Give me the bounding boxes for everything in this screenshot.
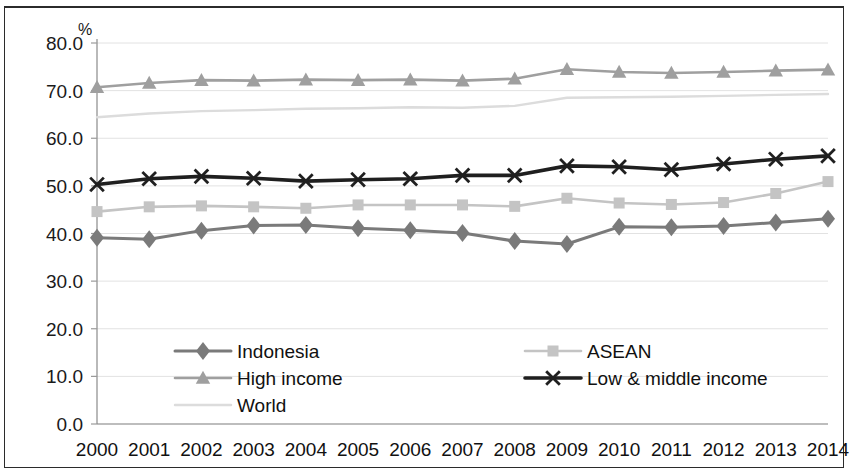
data-point-marker <box>769 214 783 232</box>
x-axis-tick-label: 2011 <box>651 439 692 460</box>
x-axis-tick-label: 2002 <box>180 439 222 460</box>
y-axis-tick-label: 40.0 <box>46 224 83 245</box>
data-point-marker <box>823 176 834 187</box>
data-point-marker <box>248 201 259 212</box>
x-axis-tick-label: 2004 <box>285 439 328 460</box>
legend-item-asean[interactable]: ASEAN <box>525 341 651 362</box>
y-axis-tick-label: 30.0 <box>46 271 83 292</box>
data-point-marker <box>821 210 835 228</box>
data-point-marker <box>455 224 469 242</box>
data-point-marker <box>90 229 104 247</box>
legend-item-world[interactable]: World <box>175 395 286 416</box>
chart-figure: 80.070.060.050.040.030.020.010.00.0 2000… <box>0 0 850 474</box>
data-point-marker <box>718 197 729 208</box>
data-point-marker <box>508 232 522 250</box>
x-axis-tick-label: 2014 <box>807 439 850 460</box>
data-point-marker <box>405 199 416 210</box>
data-point-marker <box>299 216 313 234</box>
y-axis-tick-label: 60.0 <box>46 128 83 149</box>
x-axis-tick-label: 2010 <box>598 439 640 460</box>
series-high-income <box>90 62 835 93</box>
x-axis-tick-label: 2007 <box>441 439 483 460</box>
series-low-middle-income <box>90 149 835 191</box>
x-axis-tick-label: 2006 <box>389 439 431 460</box>
legend-label: Low & middle income <box>587 368 768 389</box>
y-axis-tick-label: 20.0 <box>46 319 83 340</box>
y-axis-tick-label: 10.0 <box>46 366 83 387</box>
data-point-marker <box>142 230 156 248</box>
data-point-marker <box>144 201 155 212</box>
x-axis-tick-label: 2008 <box>494 439 536 460</box>
series-asean <box>92 176 834 217</box>
legend-item-high-income[interactable]: High income <box>175 368 343 389</box>
series-indonesia <box>90 210 835 253</box>
data-point-marker <box>770 188 781 199</box>
data-point-marker <box>403 221 417 239</box>
data-point-marker <box>353 199 364 210</box>
legend-label: High income <box>237 368 343 389</box>
data-point-marker <box>247 216 261 234</box>
data-point-marker <box>509 201 520 212</box>
chart-legend: IndonesiaASEANHigh incomeLow & middle in… <box>175 341 768 416</box>
x-axis-tick-label: 2000 <box>76 439 118 460</box>
legend-label: ASEAN <box>587 341 651 362</box>
legend-swatch-marker <box>548 346 559 357</box>
data-point-marker <box>300 203 311 214</box>
y-axis-unit-label: % <box>78 21 92 38</box>
data-point-marker <box>351 219 365 237</box>
series-line <box>97 94 828 117</box>
legend-label: World <box>237 395 286 416</box>
x-axis-tick-label: 2003 <box>233 439 275 460</box>
y-axis-tick-label: 70.0 <box>46 81 83 102</box>
x-axis-tick-labels: 2000200120022003200420052006200720082009… <box>76 439 850 460</box>
x-axis-tick-label: 2009 <box>546 439 588 460</box>
y-axis-tick-labels: 80.070.060.050.040.030.020.010.00.0 <box>46 33 83 435</box>
data-point-marker <box>666 199 677 210</box>
line-chart: 80.070.060.050.040.030.020.010.00.0 2000… <box>0 0 850 474</box>
legend-item-low-middle-income[interactable]: Low & middle income <box>525 368 768 389</box>
legend-swatch-marker <box>196 342 210 360</box>
data-point-marker <box>560 235 574 253</box>
y-axis-tick-label: 50.0 <box>46 176 83 197</box>
y-axis-tick-label: 0.0 <box>57 414 83 435</box>
data-point-marker <box>717 217 731 235</box>
legend-item-indonesia[interactable]: Indonesia <box>175 341 320 362</box>
data-point-marker <box>614 198 625 209</box>
x-axis-tick-label: 2005 <box>337 439 379 460</box>
x-axis-tick-label: 2013 <box>755 439 797 460</box>
x-axis-tick-label: 2001 <box>128 439 170 460</box>
x-axis-tick-label: 2012 <box>702 439 744 460</box>
legend-label: Indonesia <box>237 341 320 362</box>
data-point-marker <box>194 222 208 240</box>
data-point-marker <box>561 193 572 204</box>
series-world <box>97 94 828 117</box>
data-point-marker <box>457 199 468 210</box>
data-point-marker <box>92 206 103 217</box>
data-point-marker <box>196 200 207 211</box>
